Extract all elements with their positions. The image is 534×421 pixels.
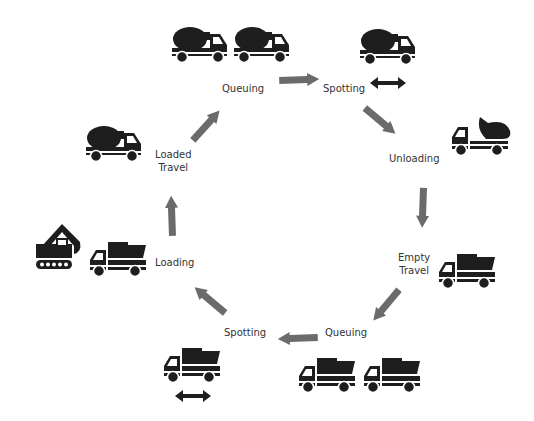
stage-label-loading: Loading bbox=[155, 256, 194, 269]
diagram-graphics bbox=[0, 0, 534, 421]
stage-label-spotting-empty: Spotting bbox=[224, 326, 266, 339]
excavator-and-dump-truck-icon bbox=[36, 224, 146, 277]
truck-cycle-diagram: Queuing Spotting Unloading Empty Travel … bbox=[0, 0, 534, 421]
dump-truck-with-double-arrow-icon bbox=[164, 348, 220, 402]
dump-truck-icon bbox=[439, 254, 495, 289]
flow-arrow-loading-to-loaded-travel bbox=[165, 196, 179, 236]
stage-label-queuing-loaded: Queuing bbox=[222, 82, 264, 95]
flow-arrow-queuing-to-spotting-bottom bbox=[278, 331, 318, 345]
stage-label-empty-travel: Empty Travel bbox=[398, 251, 430, 277]
stage-label-unloading: Unloading bbox=[389, 152, 440, 165]
stage-label-spotting-loaded: Spotting bbox=[323, 82, 365, 95]
flow-arrow-spotting-to-loading bbox=[190, 282, 229, 318]
two-dump-trucks-icon bbox=[299, 358, 420, 393]
mixer-truck-icon bbox=[86, 126, 141, 162]
stage-label-loaded-travel: Loaded Travel bbox=[155, 148, 192, 174]
flow-arrow-spotting-to-unloading bbox=[361, 103, 400, 139]
flow-arrow-empty-travel-to-queuing bbox=[368, 286, 404, 325]
truck-dumping-icon bbox=[452, 117, 510, 156]
stage-label-queuing-empty: Queuing bbox=[325, 326, 367, 339]
flow-arrow-unloading-to-empty-travel bbox=[416, 188, 430, 228]
two-mixer-trucks-icon bbox=[172, 27, 289, 63]
flow-arrow-queuing-to-spotting bbox=[279, 73, 319, 87]
mixer-truck-with-double-arrow-icon bbox=[360, 29, 415, 89]
flow-arrow-loaded-travel-to-queuing bbox=[188, 106, 224, 144]
